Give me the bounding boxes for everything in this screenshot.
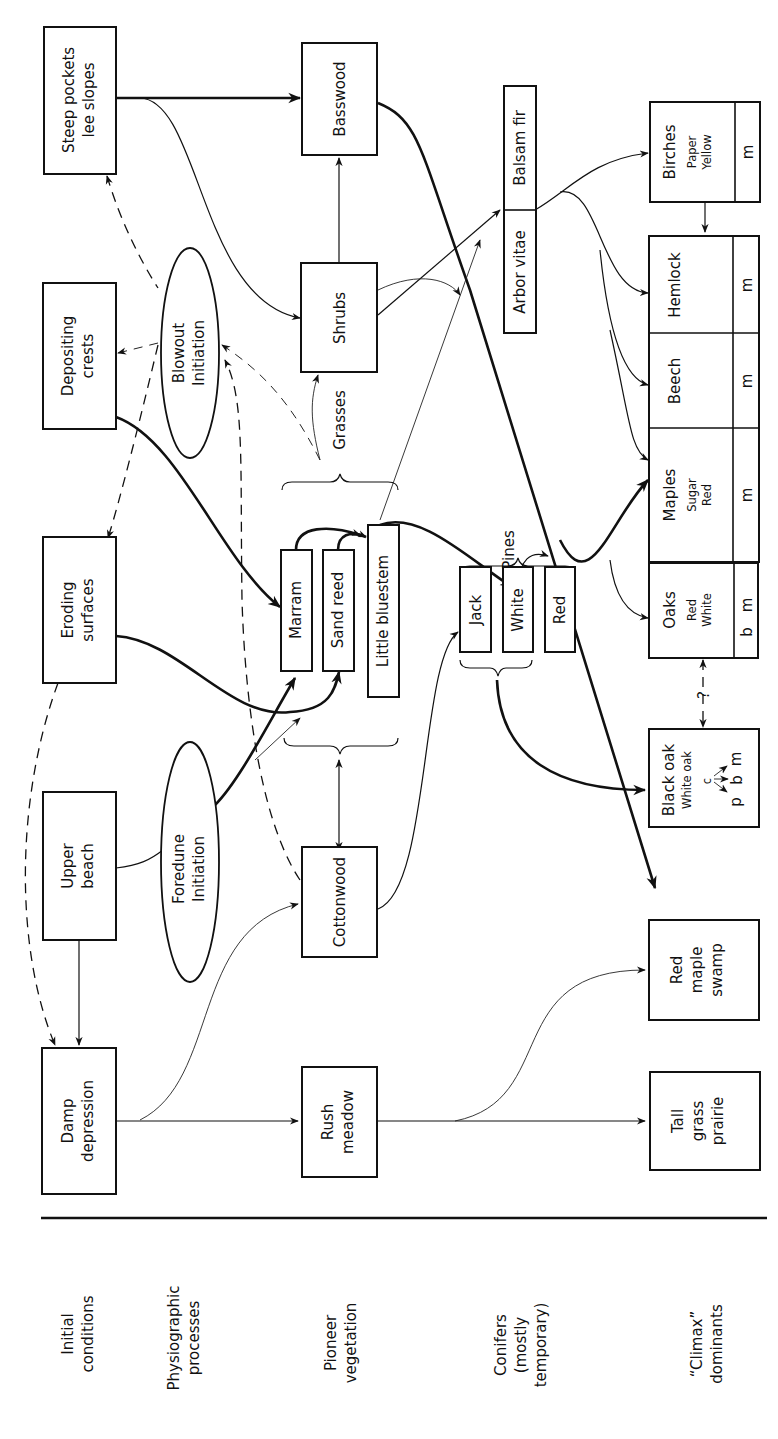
label: Maples <box>661 468 679 521</box>
initial-steep-pockets[interactable]: Steep pockets lee slopes <box>44 27 116 174</box>
label: Rush <box>319 1104 337 1141</box>
row-label-conifers: Conifers (mostly temporary) <box>492 1303 550 1388</box>
label: conditions <box>79 1295 97 1372</box>
label: Cottonwood <box>331 857 349 947</box>
grasses-bracket <box>282 474 398 490</box>
pioneer-sand-reed[interactable]: Sand reed <box>323 550 354 671</box>
arrow-steep-to-shrubs <box>140 98 300 318</box>
climax-oaks[interactable]: Oaks Red White b m <box>649 563 758 658</box>
label: (mostly <box>512 1317 530 1374</box>
climax-red-maple-swamp[interactable]: Red maple swamp <box>649 920 759 1020</box>
diagram-canvas: Steep pockets lee slopes Depositing cres… <box>0 0 778 1439</box>
label: grass <box>689 1101 707 1142</box>
climax-birches[interactable]: Birches Paper Yellow m <box>650 102 760 202</box>
label: Foredune <box>170 834 188 904</box>
initial-upper-beach[interactable]: Upper beach <box>43 792 116 940</box>
label: temporary) <box>532 1303 550 1388</box>
label: Physiographic <box>165 1286 183 1391</box>
pioneer-little-bluestem[interactable]: Little bluestem <box>368 525 399 697</box>
row-label-climax-dominants: “Climax” dominants <box>688 1304 726 1384</box>
initial-damp-depression[interactable]: Damp depression <box>42 1048 116 1194</box>
arrow-pines-to-maples <box>560 480 648 562</box>
arrow-conifers-to-maples <box>610 330 648 460</box>
label: White oak <box>680 751 694 809</box>
label: m <box>738 488 756 503</box>
arrow-bluestem-to-conifers <box>380 240 480 520</box>
label: Sand reed <box>329 572 347 648</box>
label: Paper <box>685 135 699 168</box>
label: Blowout <box>170 323 188 384</box>
label: Pioneer <box>322 1314 340 1371</box>
jackwhite-bracket <box>460 660 532 676</box>
conifer-jack-pine[interactable]: Jack <box>460 567 491 652</box>
label: Oaks <box>661 591 679 629</box>
label: Conifers <box>492 1314 510 1376</box>
arrow-rush-to-redmaple <box>455 970 645 1121</box>
label: Yellow <box>700 134 714 170</box>
label: m <box>738 278 756 293</box>
label: Initiation <box>190 320 208 386</box>
pines-label: Pines <box>500 530 518 570</box>
dash-blowout-to-steep <box>107 176 158 288</box>
label: Jack <box>467 594 485 626</box>
label: dominants <box>708 1304 726 1384</box>
label: processes <box>185 1300 203 1375</box>
pioneer-cottonwood[interactable]: Cottonwood <box>302 847 377 957</box>
label: Depositing <box>59 316 77 397</box>
label: Black oak <box>660 743 678 816</box>
climax-black-oak[interactable]: Black oak White oak c m b p <box>649 729 759 827</box>
label: m <box>739 145 757 160</box>
pioneer-shrubs[interactable]: Shrubs <box>301 263 377 372</box>
arrow-shrubs-to-hardwoods <box>378 279 460 295</box>
label: Sugar <box>685 478 699 512</box>
label: Red <box>551 596 569 625</box>
label: c <box>700 778 714 784</box>
label: Red <box>668 956 686 985</box>
label: surfaces <box>79 578 97 641</box>
pioneer-basswood[interactable]: Basswood <box>302 43 377 155</box>
arrow-conifers-to-birches <box>535 153 648 210</box>
initial-eroding-surfaces[interactable]: Eroding surfaces <box>43 537 116 683</box>
label: swamp <box>708 943 726 996</box>
label: Upper <box>59 842 77 888</box>
label: Red <box>700 484 714 506</box>
arbor-vitae-label: Arbor vitae <box>511 230 529 313</box>
label: Steep pockets <box>60 47 78 153</box>
line-upperbeach-to-foredune <box>116 850 163 868</box>
label: m <box>738 598 756 613</box>
arrow-pines-to-blackoak <box>497 680 645 790</box>
arrow-to-oaks <box>610 560 648 618</box>
process-foredune-initiation[interactable]: Foredune Initiation <box>161 742 219 982</box>
arrow-foredune-to-marram <box>215 678 295 805</box>
pioneer-bracket <box>284 738 398 754</box>
initial-depositing-crests[interactable]: Depositing crests <box>43 283 116 429</box>
label: lee slopes <box>80 62 98 137</box>
conifer-white-pine[interactable]: White <box>503 567 533 652</box>
label: Eroding <box>59 581 77 638</box>
label: White <box>700 593 714 626</box>
dune-succession-diagram: Steep pockets lee slopes Depositing cres… <box>0 0 778 1439</box>
label: b <box>728 775 746 785</box>
conifer-arbor-vitae-balsam-fir[interactable]: Balsam fir Arbor vitae <box>504 86 536 333</box>
grasses-label: Grasses <box>331 390 349 450</box>
uncertain-link-label: ? <box>695 691 713 699</box>
arrow-conifers-to-hemlock <box>560 192 648 293</box>
dash-blowout-to-depositing <box>118 343 158 353</box>
label: m <box>738 374 756 389</box>
label: vegetation <box>342 1303 360 1384</box>
label: m <box>727 752 745 767</box>
label: Damp <box>59 1099 77 1144</box>
pioneer-marram[interactable]: Marram <box>281 550 312 671</box>
label: Red <box>685 599 699 621</box>
row-label-physiographic-processes: Physiographic processes <box>165 1286 203 1391</box>
label: maple <box>688 947 706 994</box>
pioneer-rush-meadow[interactable]: Rush meadow <box>302 1067 377 1177</box>
label: p <box>727 797 745 807</box>
label: Marram <box>287 581 305 639</box>
conifer-red-pine[interactable]: Red <box>545 567 575 652</box>
process-blowout-initiation[interactable]: Blowout Initiation <box>161 248 219 458</box>
climax-tall-grass-prairie[interactable]: Tall grass prairie <box>650 1072 760 1170</box>
label: beach <box>79 843 97 889</box>
balsam-fir-label: Balsam fir <box>511 109 529 185</box>
label: Tall <box>669 1109 687 1134</box>
